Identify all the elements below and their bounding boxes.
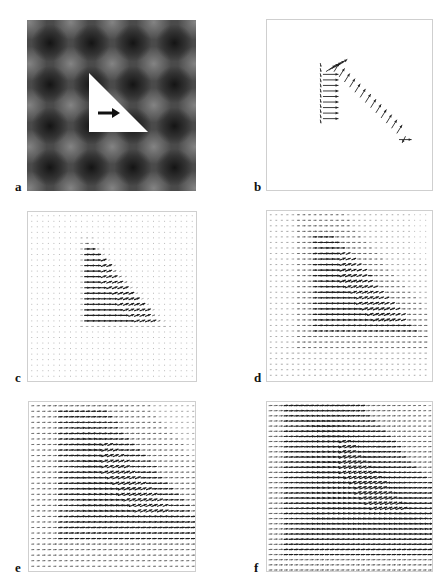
panel-label-c: c <box>15 371 21 384</box>
panel-f-vector-field <box>266 401 433 572</box>
panel-label-a: a <box>15 180 22 193</box>
panel-label-e: e <box>15 561 21 574</box>
panel-a-stimulus-image <box>27 20 196 191</box>
panel-b-sparse-vector-field <box>266 19 433 191</box>
panel-d-vector-field <box>266 210 433 382</box>
running-header <box>0 0 160 3</box>
panel-label-b: b <box>254 180 261 193</box>
panel-c-vector-field <box>27 211 197 382</box>
panel-label-d: d <box>254 371 261 384</box>
panel-label-f: f <box>254 561 258 574</box>
panel-e-vector-field <box>28 401 196 572</box>
